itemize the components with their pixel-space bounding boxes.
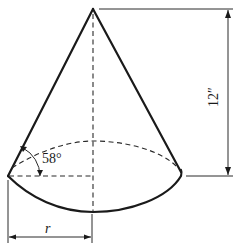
angle-label: 58° [42, 151, 62, 166]
cone-diagram: 58° 12″ r [0, 0, 238, 248]
height-arrowhead-bottom [225, 167, 231, 175]
angle-arc [23, 148, 40, 176]
radius-label: r [45, 221, 51, 236]
cone-base-back-curve [12, 141, 176, 168]
radius-arrowhead-right [84, 235, 91, 240]
radius-arrowhead-left [9, 235, 16, 240]
height-label: 12″ [206, 87, 221, 107]
cone-base-front-curve [8, 170, 181, 212]
angle-arrowhead-bottom [37, 170, 43, 176]
height-arrowhead-top [225, 10, 231, 18]
cone-right-slant-edge [93, 9, 181, 172]
